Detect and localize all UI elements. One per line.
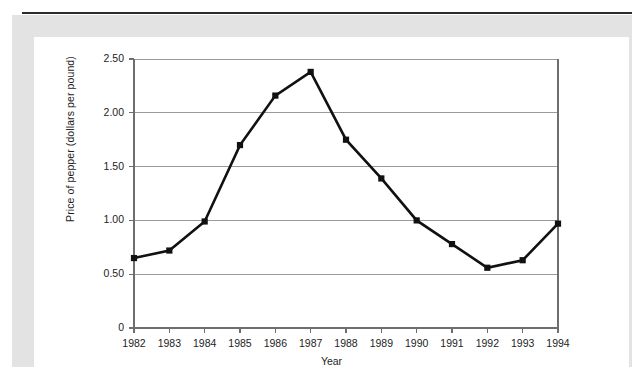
data-point-marker — [520, 257, 526, 263]
data-point-marker — [272, 92, 278, 98]
data-point-marker — [555, 221, 561, 227]
series-line — [134, 72, 558, 268]
x-tick-label: 1990 — [397, 337, 437, 349]
data-point-marker — [414, 217, 420, 223]
y-tick-label: 0.50 — [84, 267, 124, 279]
figure-mat: Price of pepper (dollars per pound) Year… — [12, 15, 632, 367]
y-tick-label: 2.00 — [84, 106, 124, 118]
x-axis-title: Year — [34, 355, 629, 367]
y-axis-title: Price of pepper (dollars per pound) — [64, 39, 76, 239]
data-point-marker — [308, 69, 314, 75]
data-point-marker — [166, 247, 172, 253]
data-point-marker — [484, 265, 490, 271]
y-tick-label: 0 — [84, 321, 124, 333]
figure-card: Price of pepper (dollars per pound) Year… — [34, 37, 629, 372]
y-tick-label: 1.00 — [84, 213, 124, 225]
x-tick-label: 1986 — [255, 337, 295, 349]
page-root: Price of pepper (dollars per pound) Year… — [0, 0, 636, 374]
data-point-marker — [378, 175, 384, 181]
x-tick-label: 1993 — [503, 337, 543, 349]
x-tick-label: 1985 — [220, 337, 260, 349]
data-point-marker — [343, 137, 349, 143]
data-point-marker — [131, 255, 137, 261]
x-tick-label: 1982 — [114, 337, 154, 349]
x-tick-label: 1991 — [432, 337, 472, 349]
x-tick-label: 1984 — [185, 337, 225, 349]
x-tick-label: 1987 — [291, 337, 331, 349]
x-tick-label: 1988 — [326, 337, 366, 349]
x-tick-label: 1989 — [361, 337, 401, 349]
data-point-marker — [449, 241, 455, 247]
data-point-marker — [202, 218, 208, 224]
y-tick-label: 2.50 — [84, 52, 124, 64]
line-chart: Price of pepper (dollars per pound) Year… — [34, 37, 629, 372]
x-tick-label: 1983 — [149, 337, 189, 349]
y-tick-label: 1.50 — [84, 160, 124, 172]
x-tick-label: 1992 — [467, 337, 507, 349]
top-divider-rule — [22, 12, 632, 14]
data-point-marker — [237, 142, 243, 148]
x-tick-label: 1994 — [538, 337, 578, 349]
